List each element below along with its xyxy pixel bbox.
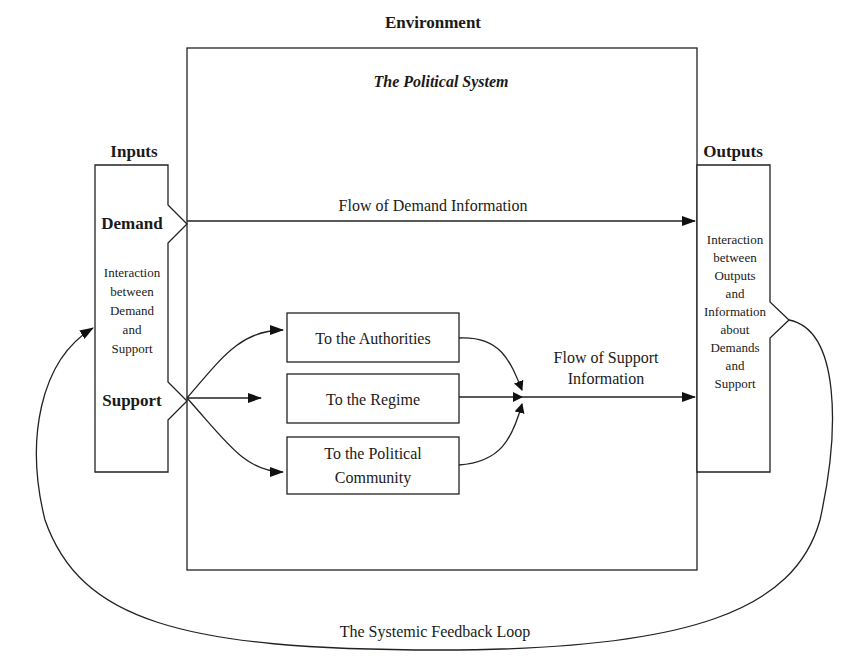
svg-text:To the Political: To the Political bbox=[324, 445, 422, 462]
svg-text:and: and bbox=[726, 286, 745, 301]
svg-text:between: between bbox=[713, 250, 757, 265]
svg-text:To the Authorities: To the Authorities bbox=[315, 330, 430, 347]
svg-text:Demands: Demands bbox=[710, 340, 759, 355]
svg-text:Community: Community bbox=[335, 469, 411, 487]
svg-text:and: and bbox=[726, 358, 745, 373]
svg-text:and: and bbox=[123, 322, 142, 337]
support-flow-label: Flow of Support bbox=[554, 349, 659, 367]
outputs-heading: Outputs bbox=[703, 142, 763, 161]
svg-text:To the Regime: To the Regime bbox=[326, 391, 420, 409]
political-system-diagram: Environment The Political System Inputs … bbox=[0, 0, 864, 670]
svg-text:Outputs: Outputs bbox=[714, 268, 755, 283]
inputs-box bbox=[95, 165, 187, 472]
demand-label: Demand bbox=[101, 214, 163, 233]
svg-text:Demand: Demand bbox=[110, 303, 155, 318]
political-system-label: The Political System bbox=[373, 73, 508, 91]
inputs-interaction-text: Interaction between Demand and Support bbox=[104, 265, 161, 356]
svg-text:Support: Support bbox=[111, 341, 153, 356]
svg-text:Interaction: Interaction bbox=[707, 232, 764, 247]
svg-text:Information: Information bbox=[704, 304, 767, 319]
support-label: Support bbox=[102, 391, 162, 410]
svg-text:Information: Information bbox=[568, 370, 644, 387]
inputs-heading: Inputs bbox=[110, 142, 158, 161]
environment-title: Environment bbox=[385, 13, 481, 32]
feedback-loop-label: The Systemic Feedback Loop bbox=[340, 623, 531, 641]
svg-text:about: about bbox=[721, 322, 750, 337]
demand-flow-label: Flow of Demand Information bbox=[339, 197, 528, 214]
svg-text:Interaction: Interaction bbox=[104, 265, 161, 280]
svg-text:Support: Support bbox=[714, 376, 756, 391]
svg-text:between: between bbox=[110, 284, 154, 299]
